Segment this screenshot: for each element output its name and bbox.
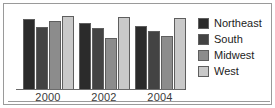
bar-midwest-2000 [49,21,61,90]
bar-group-2004 [132,10,188,90]
x-axis-tick-labels: 200020022004 [16,91,184,107]
bar-group-2002 [76,10,132,90]
legend-swatch-icon-west [198,66,209,77]
bar-south-2004 [148,31,160,90]
legend-label-midwest: Midwest [214,50,254,61]
legend-item-west: West [198,64,275,79]
bar-west-2004 [174,18,186,90]
bar-chart-figure: 200020022004 NortheastSouthMidwestWest [0,0,275,108]
legend-label-south: South [214,34,243,45]
plot-area: 200020022004 [16,10,184,106]
bar-midwest-2004 [161,36,173,90]
legend-item-midwest: Midwest [198,48,275,63]
bar-west-2000 [62,16,74,90]
legend-item-south: South [198,32,275,47]
bar-northeast-2000 [23,19,35,90]
bar-group-2000 [20,10,76,90]
legend-label-west: West [214,66,239,77]
bar-south-2000 [36,27,48,90]
bar-west-2002 [118,17,130,90]
bar-south-2002 [92,28,104,90]
legend-swatch-icon-midwest [198,50,209,61]
legend-item-northeast: Northeast [198,16,275,31]
bar-midwest-2002 [105,38,117,90]
legend-swatch-icon-northeast [198,18,209,29]
bar-northeast-2002 [79,23,91,90]
footer-divider [8,101,270,102]
bar-northeast-2004 [135,26,147,90]
chart-frame: 200020022004 NortheastSouthMidwestWest [3,3,272,105]
legend-swatch-icon-south [198,34,209,45]
chart-legend: NortheastSouthMidwestWest [198,16,275,80]
bars-layer [16,10,184,90]
x-axis-line [16,89,184,90]
legend-label-northeast: Northeast [214,18,262,29]
